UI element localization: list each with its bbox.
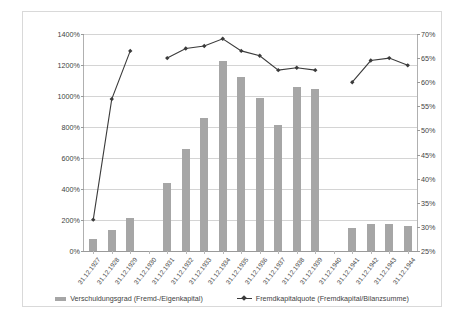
x-axis-tick-mark [93, 251, 94, 254]
right-axis-tick-mark [417, 155, 420, 156]
x-axis-tick-mark [315, 251, 316, 254]
left-axis-tick-label: 1200% [58, 61, 80, 70]
right-axis-tick-mark [417, 106, 420, 107]
x-axis-tick-mark [167, 251, 168, 254]
left-axis-tick-label: 1400% [58, 30, 80, 39]
line-marker [295, 66, 299, 70]
right-axis-tick-mark [417, 130, 420, 131]
right-axis-tick-label: 55% [421, 102, 435, 111]
x-axis-tick-mark [112, 251, 113, 254]
x-axis-tick-mark [278, 251, 279, 254]
right-axis-tick-label: 25% [421, 247, 435, 256]
line-marker [91, 217, 95, 221]
legend-label-fremdkapitalquote: Fremdkapitalquote (Fremdkapital/Bilanzsu… [256, 294, 409, 303]
right-axis-tick-label: 40% [421, 174, 435, 183]
x-axis-tick-mark [241, 251, 242, 254]
line-series [84, 34, 417, 251]
legend-label-verschuldungsgrad: Verschuldungsgrad (Fremd-/Eigenkapital) [70, 294, 203, 303]
line-marker [387, 56, 391, 60]
line-marker [184, 46, 188, 50]
x-axis-tick-mark [149, 251, 150, 254]
left-axis-tick-label: 800% [62, 123, 80, 132]
legend-bar-swatch-icon [55, 297, 66, 301]
right-axis-tick-mark [417, 82, 420, 83]
x-axis-tick-mark [223, 251, 224, 254]
legend-item-fremdkapitalquote: Fremdkapitalquote (Fremdkapital/Bilanzsu… [237, 294, 409, 303]
line-marker [128, 49, 132, 53]
right-axis-tick-label: 30% [421, 222, 435, 231]
x-axis-tick-mark [371, 251, 372, 254]
line-path [93, 51, 130, 220]
right-axis-tick-mark [417, 227, 420, 228]
legend-line-marker-icon [237, 296, 252, 302]
right-axis-tick-mark [417, 58, 420, 59]
left-axis-tick-label: 0% [70, 247, 80, 256]
line-marker [202, 44, 206, 48]
x-axis-tick-mark [186, 251, 187, 254]
right-axis-tick-label: 60% [421, 78, 435, 87]
x-axis-tick-mark [408, 251, 409, 254]
right-axis-tick-mark [417, 179, 420, 180]
line-marker [406, 63, 410, 67]
line-path [167, 39, 315, 70]
right-axis-tick-label: 70% [421, 30, 435, 39]
chart-container: 0%200%400%600%800%1000%1200%1400% 25%30%… [22, 11, 442, 307]
line-marker [165, 56, 169, 60]
chart-legend: Verschuldungsgrad (Fremd-/Eigenkapital) … [23, 294, 441, 303]
left-axis-tick-mark [81, 251, 84, 252]
right-axis-tick-mark [417, 34, 420, 35]
figure-caption [24, 310, 454, 319]
x-axis-tick-mark [334, 251, 335, 254]
left-axis-tick-label: 200% [62, 216, 80, 225]
line-marker [313, 68, 317, 72]
x-axis-tick-mark [204, 251, 205, 254]
line-marker [110, 97, 114, 101]
x-axis-tick-mark [260, 251, 261, 254]
left-axis-tick-label: 1000% [58, 92, 80, 101]
x-axis-tick-mark [389, 251, 390, 254]
right-axis-tick-mark [417, 203, 420, 204]
x-axis-tick-mark [297, 251, 298, 254]
right-axis-tick-label: 35% [421, 198, 435, 207]
right-axis-tick-mark [417, 251, 420, 252]
left-axis-tick-label: 600% [62, 154, 80, 163]
x-axis-tick-mark [130, 251, 131, 254]
right-axis-tick-label: 45% [421, 150, 435, 159]
right-axis-tick-label: 65% [421, 54, 435, 63]
line-path [352, 58, 408, 82]
right-axis-tick-label: 50% [421, 126, 435, 135]
x-axis-tick-mark [352, 251, 353, 254]
legend-item-verschuldungsgrad: Verschuldungsgrad (Fremd-/Eigenkapital) [55, 294, 203, 303]
left-axis-tick-label: 400% [62, 185, 80, 194]
plot-area: 0%200%400%600%800%1000%1200%1400% 25%30%… [83, 34, 418, 252]
